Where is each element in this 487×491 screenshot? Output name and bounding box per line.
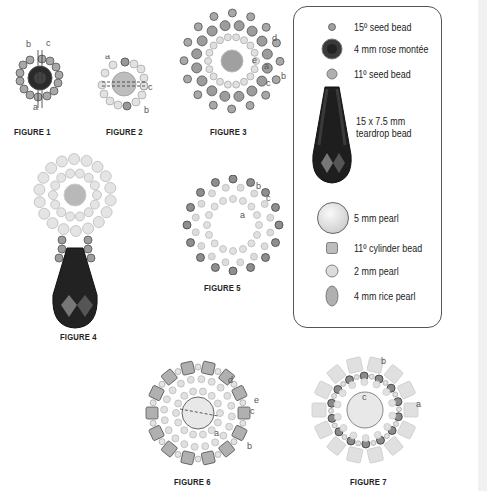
figure-7: b c a [300,352,430,470]
legend-label: 15º seed bead [354,21,411,33]
figure-1-caption: FIGURE 1 [14,127,51,137]
figure-3-label-b: b [281,71,286,81]
legend-label: 4 mm rose montée [354,43,428,55]
seed-bead-11-icon [325,67,339,81]
figure-7-label-b: b [381,356,386,366]
figure-6-label-c: c [250,406,255,416]
page-edge-strip [478,0,487,491]
figure-6: d e c a b [130,358,260,468]
seed-bead-15-icon [326,21,338,33]
figure-3-caption: FIGURE 3 [210,127,247,137]
figure-6-label-b: b [247,441,252,451]
legend-box: 15º seed bead 4 mm rose montée 11º seed … [293,6,442,328]
figure-1-label-b: b [26,39,31,49]
figure-2-label-a: a [105,55,110,61]
figure-7-caption: FIGURE 7 [350,477,387,487]
rose-montee-icon [321,38,343,60]
cylinder-bead-icon [325,241,339,255]
figure-3-label-e: e [252,55,257,65]
figure-6-caption: FIGURE 6 [174,477,211,487]
rice-pearl-icon [324,284,340,308]
figure-4-caption: FIGURE 4 [60,332,97,342]
figure-5-label-c: c [266,193,271,203]
figure-1: b c a [10,30,70,110]
figure-1-label-a: a [33,102,38,110]
figure-5-caption: FIGURE 5 [204,283,241,293]
legend-label: 11º cylinder bead [354,242,422,254]
figure-5-label-a: a [240,210,245,220]
figure-1-label-c: c [46,38,51,48]
figure-7-label-a: a [416,399,421,409]
legend-label: 11º seed bead [354,68,411,80]
figure-2: a c b [95,55,155,115]
legend-label: 5 mm pearl [354,212,399,224]
figure-2-caption: FIGURE 2 [106,127,143,137]
figure-3: d e a b c [172,6,292,116]
figure-4-diagram [25,145,125,330]
figure-4 [25,145,125,330]
figure-3-label-a: a [264,61,269,71]
legend-label-line1: 15 x 7.5 mm [356,115,405,127]
teardrop-bead-icon [309,85,355,185]
figure-6-label-e: e [254,395,259,405]
legend-label: 4 mm rice pearl [354,290,416,302]
figure-5: b c a [178,175,288,275]
pearl-5mm-icon [316,201,350,235]
legend-label-line2: teardrop bead [356,127,412,139]
figure-7-label-c: c [362,392,367,402]
figure-2-label-b: b [144,105,149,115]
legend-label: 2 mm pearl [354,265,399,277]
figure-5-label-b: b [256,181,261,191]
pearl-2mm-icon [324,263,340,279]
figure-3-label-d: d [272,33,277,43]
figure-6-label-a: a [214,428,219,438]
figure-2-label-c: c [148,82,153,92]
figure-6-label-d: d [228,375,233,385]
figure-3-label-c: c [266,78,271,88]
